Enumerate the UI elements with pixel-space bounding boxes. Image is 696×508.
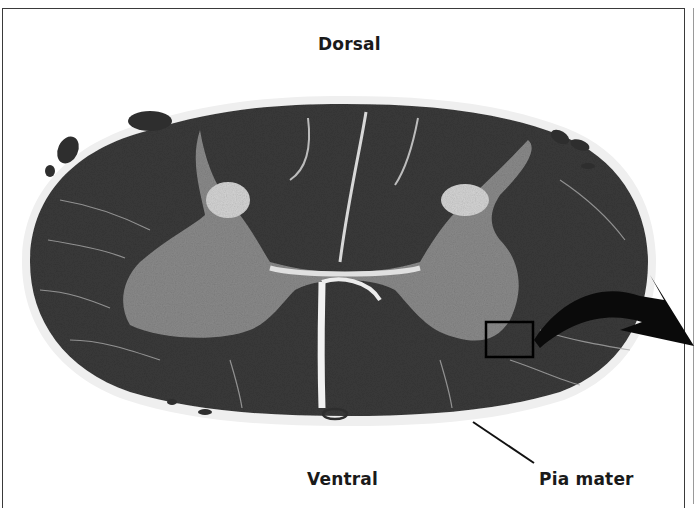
ventral-median-fissure	[321, 282, 322, 408]
dorsal-label: Dorsal	[318, 34, 381, 54]
dorsal-horn-left	[206, 182, 250, 218]
pia-mater-label: Pia mater	[539, 469, 634, 489]
pia-mater-leader-line	[473, 422, 534, 463]
dorsal-horn-right	[441, 184, 489, 216]
ventral-label: Ventral	[307, 469, 378, 489]
